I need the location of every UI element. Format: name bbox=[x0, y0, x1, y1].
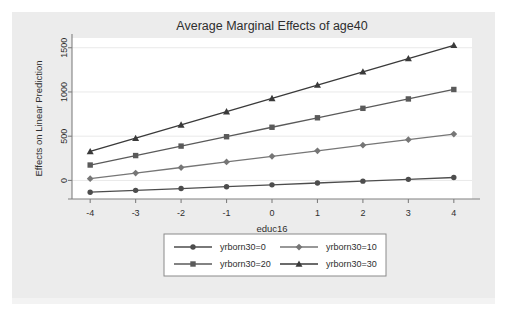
y-axis: 050010001500Effects on Linear Prediction bbox=[33, 38, 73, 183]
marker-circle bbox=[360, 178, 365, 183]
figure-panel: 050010001500Effects on Linear Prediction… bbox=[12, 12, 495, 304]
marker-circle bbox=[87, 189, 92, 194]
y-tick-label: 500 bbox=[59, 129, 69, 144]
plot-area bbox=[72, 38, 472, 199]
marginal-effects-chart: 050010001500Effects on Linear Prediction… bbox=[12, 12, 495, 304]
marker-square bbox=[224, 134, 229, 139]
marker-circle bbox=[406, 177, 411, 182]
marker-circle bbox=[190, 244, 195, 249]
x-tick-label: 3 bbox=[406, 208, 411, 218]
marker-square bbox=[451, 87, 456, 92]
marker-circle bbox=[315, 180, 320, 185]
y-tick-label: 1500 bbox=[59, 38, 69, 58]
legend-label: yrborn30=30 bbox=[326, 259, 377, 269]
marker-circle bbox=[178, 186, 183, 191]
marker-square bbox=[133, 153, 138, 158]
marker-circle bbox=[224, 184, 229, 189]
x-tick-label: 1 bbox=[315, 208, 320, 218]
x-axis-title: educ16 bbox=[256, 223, 287, 234]
marker-square bbox=[315, 115, 320, 120]
marker-circle bbox=[133, 188, 138, 193]
marker-square bbox=[406, 96, 411, 101]
marker-circle bbox=[269, 182, 274, 187]
y-tick-label: 1000 bbox=[59, 82, 69, 102]
marker-square bbox=[178, 143, 183, 148]
x-tick-label: -1 bbox=[223, 208, 231, 218]
x-axis: -4-3-2-101234educ16 bbox=[86, 199, 456, 234]
legend-label: yrborn30=20 bbox=[220, 259, 271, 269]
marker-square bbox=[269, 125, 274, 130]
x-tick-label: -3 bbox=[132, 208, 140, 218]
legend: yrborn30=0yrborn30=10yrborn30=20yrborn30… bbox=[164, 234, 386, 276]
marker-square bbox=[87, 162, 92, 167]
x-tick-label: 2 bbox=[360, 208, 365, 218]
marker-circle bbox=[451, 175, 456, 180]
y-tick-label: 0 bbox=[59, 178, 69, 183]
legend-label: yrborn30=0 bbox=[220, 242, 266, 252]
chart-title: Average Marginal Effects of age40 bbox=[176, 19, 367, 33]
x-tick-label: 4 bbox=[451, 208, 456, 218]
marker-square bbox=[360, 106, 365, 111]
legend-box bbox=[164, 234, 386, 276]
legend-label: yrborn30=10 bbox=[326, 242, 377, 252]
marker-square bbox=[190, 261, 195, 266]
x-tick-label: -2 bbox=[177, 208, 185, 218]
y-axis-title: Effects on Linear Prediction bbox=[33, 60, 44, 176]
x-tick-label: 0 bbox=[269, 208, 274, 218]
x-tick-label: -4 bbox=[86, 208, 94, 218]
screenshot-root: 050010001500Effects on Linear Prediction… bbox=[0, 0, 507, 321]
